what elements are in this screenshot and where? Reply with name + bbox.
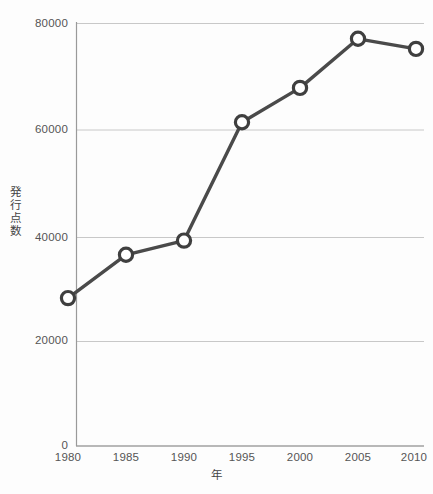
data-point-1980 (61, 292, 74, 305)
plot-area (0, 0, 433, 494)
x-tick-label-2005: 2005 (328, 452, 388, 464)
x-tick-label-2010: 2010 (384, 452, 433, 464)
data-point-2005 (351, 32, 364, 45)
x-tick-label-1990: 1990 (154, 452, 214, 464)
x-axis-title: 年 (0, 470, 433, 482)
x-tick-label-1985: 1985 (96, 452, 156, 464)
data-point-1990 (177, 234, 190, 247)
data-point-2010 (409, 42, 422, 55)
y-axis-title: 発行点数 (4, 186, 20, 238)
line-chart: 80000 60000 40000 20000 0 (0, 0, 433, 494)
x-tick-label-1980: 1980 (38, 452, 98, 464)
x-tick-label-2000: 2000 (270, 452, 330, 464)
x-tick-label-1995: 1995 (212, 452, 272, 464)
data-point-1985 (119, 248, 132, 261)
data-point-2000 (293, 81, 306, 94)
data-point-1995 (235, 116, 248, 129)
gridlines (76, 24, 424, 447)
